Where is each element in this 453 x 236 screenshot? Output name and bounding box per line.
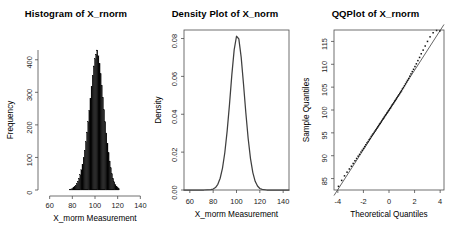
panel-density: Density Plot of X_norm 0.000.020.040.060… [152, 0, 298, 236]
y-tick-label: 0.02 [170, 148, 179, 162]
qq-point [346, 171, 348, 173]
qq-point [370, 136, 372, 138]
panel-qqplot: QQPlot of X_rnorm 859095100105110115Samp… [298, 0, 453, 236]
histogram-bar [76, 183, 77, 190]
qq-point [409, 75, 411, 77]
histogram-bar [93, 66, 94, 190]
panel-histogram: Histogram of X_rnorm 0100200300400Freque… [0, 0, 152, 236]
histogram-bar [77, 181, 78, 190]
qq-point [399, 93, 401, 95]
histogram-bar [97, 50, 98, 190]
histogram-bar [70, 189, 71, 190]
histogram-bar [94, 59, 95, 190]
qq-point [365, 144, 367, 146]
histogram-bars [70, 50, 120, 190]
histogram-bar [105, 122, 106, 190]
histogram-bar [88, 122, 89, 190]
y-tick-label: 0.06 [170, 72, 179, 86]
y-tick-label: 85 [320, 177, 329, 185]
qq-point [360, 151, 362, 153]
qq-point [392, 103, 394, 105]
qq-point [352, 163, 354, 165]
qq-point [383, 117, 385, 119]
qq-point [400, 91, 402, 93]
histogram-bar [99, 64, 100, 190]
qq-point [388, 109, 390, 111]
histogram-bar [104, 110, 105, 190]
density-y-label: Density [154, 95, 163, 123]
qq-point [395, 100, 397, 102]
qq-point [429, 36, 431, 38]
histogram-bar [100, 74, 101, 190]
y-tick-label: 90 [320, 154, 329, 162]
x-tick-label: 100 [89, 201, 101, 210]
qq-point [408, 78, 410, 80]
histogram-bar [82, 164, 83, 190]
qq-y-label: Sample Quantiles [302, 78, 311, 143]
qq-point [396, 97, 398, 99]
qq-point [344, 175, 346, 177]
qq-point [391, 106, 393, 108]
y-tick-label: 105 [320, 84, 329, 96]
qq-point [404, 85, 406, 87]
y-tick-label: 200 [25, 121, 34, 133]
qq-point [351, 165, 353, 167]
qq-point [372, 133, 374, 135]
histogram-bar [98, 56, 99, 190]
histogram-bar [84, 150, 85, 190]
qq-point [424, 45, 426, 47]
x-tick-label: 120 [111, 201, 123, 210]
x-tick-label: 140 [134, 201, 146, 210]
histogram-bar [92, 75, 93, 190]
qq-point [427, 41, 429, 43]
y-tick-label: 100 [25, 154, 34, 166]
qq-point [375, 129, 377, 131]
qq-point [377, 126, 379, 128]
qq-point [398, 94, 400, 96]
x-tick-label: 60 [186, 197, 194, 206]
histogram-y-label: Frequency [6, 100, 15, 140]
histogram-bar [113, 178, 114, 190]
qq-point [413, 69, 415, 71]
qq-point [363, 148, 365, 150]
histogram-bar [114, 182, 115, 190]
x-tick-label: 4 [438, 197, 442, 206]
qq-point [359, 154, 361, 156]
histogram-bar [90, 98, 91, 190]
qqplot-plot: 859095100105110115Sample Quantiles-4-202… [298, 0, 453, 236]
qq-point [406, 81, 408, 83]
qq-point [362, 149, 364, 151]
qq-point [397, 96, 399, 98]
histogram-bar [109, 161, 110, 190]
histogram-bar [85, 142, 86, 190]
qq-point [401, 90, 403, 92]
y-tick-label: 0.00 [170, 185, 179, 199]
x-tick-label: 80 [68, 201, 76, 210]
qq-point [338, 186, 340, 188]
qq-point [417, 60, 419, 62]
qq-point [416, 63, 418, 64]
histogram-bar [74, 187, 75, 190]
qq-point [414, 66, 416, 68]
qq-point [402, 88, 404, 90]
histogram-bar [107, 143, 108, 190]
qq-point [364, 146, 366, 148]
y-tick-label: 300 [25, 89, 34, 101]
qq-point [422, 49, 424, 51]
histogram-bar [75, 185, 76, 190]
qq-point [393, 102, 395, 104]
histogram-bar [115, 184, 116, 190]
histogram-bar [110, 168, 111, 190]
qq-point [380, 123, 382, 125]
qq-point [378, 125, 380, 127]
y-tick-label: 400 [25, 56, 34, 68]
qq-point [369, 138, 371, 140]
qq-point [376, 128, 378, 129]
y-tick-label: 0.08 [170, 34, 179, 48]
histogram-bar [106, 133, 107, 190]
x-tick-label: 100 [230, 197, 242, 206]
qq-point [396, 98, 398, 100]
qq-point [387, 112, 389, 114]
qq-point [405, 83, 407, 85]
x-tick-label: 60 [46, 201, 54, 210]
